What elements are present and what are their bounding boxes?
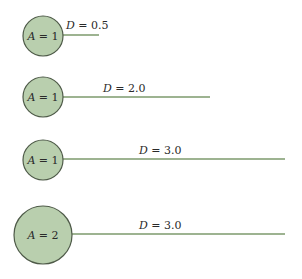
row-1: A = 1 D = 0.5 [23,16,109,56]
distance-label: D = 3.0 [138,219,182,232]
row-4: A = 2 D = 3.0 [14,206,285,264]
area-label: A = 1 [26,154,58,167]
area-distance-diagram: A = 1 D = 0.5 A = 1 D = 2.0 A = 1 D = 3.… [0,0,302,279]
row-2: A = 1 D = 2.0 [23,77,210,117]
row-3: A = 1 D = 3.0 [23,140,285,180]
distance-label: D = 0.5 [65,19,109,32]
area-label: A = 1 [26,30,58,43]
distance-label: D = 3.0 [138,144,182,157]
area-label: A = 1 [26,91,58,104]
distance-label: D = 2.0 [102,82,146,95]
area-label: A = 2 [26,229,58,242]
